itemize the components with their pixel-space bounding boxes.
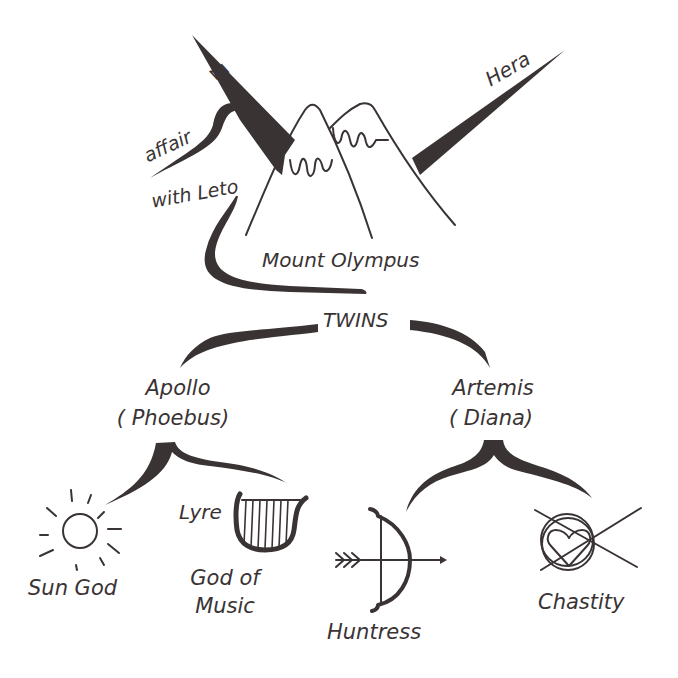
crossed-heart-icon xyxy=(535,508,641,570)
sun-icon xyxy=(40,490,121,570)
bow-and-arrow-icon xyxy=(336,509,447,611)
twins-label: TWINS xyxy=(323,310,389,330)
apollo-branches-connector xyxy=(105,442,288,505)
god-of-music-line1: God of xyxy=(180,568,270,589)
lyre-label: Lyre xyxy=(179,502,222,522)
sun-god-label: Sun God xyxy=(28,578,117,599)
lyre-icon xyxy=(236,494,306,550)
huntress-label: Huntress xyxy=(327,622,421,643)
twins-to-apollo-connector xyxy=(180,324,318,368)
artemis-branches-connector xyxy=(406,440,592,512)
artemis-name: Artemis xyxy=(438,378,548,399)
twins-to-artemis-connector xyxy=(410,320,490,368)
mount-olympus-label: Mount Olympus xyxy=(262,250,419,270)
artemis-alias: ( Diana) xyxy=(436,408,546,429)
leto-to-twins-connector xyxy=(205,196,367,294)
apollo-alias: ( Phoebus) xyxy=(108,408,238,429)
chastity-label: Chastity xyxy=(538,592,625,613)
god-of-music-line2: Music xyxy=(180,596,270,617)
apollo-name: Apollo xyxy=(128,378,228,399)
